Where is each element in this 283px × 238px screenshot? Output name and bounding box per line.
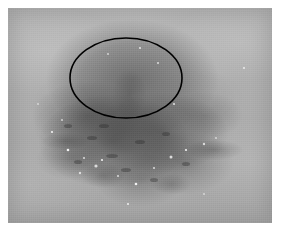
roi-ellipse-annotation[interactable]	[70, 38, 182, 118]
annotation-overlay	[8, 8, 272, 223]
image-viewport	[0, 0, 283, 238]
dermoscopy-photograph	[8, 8, 272, 223]
